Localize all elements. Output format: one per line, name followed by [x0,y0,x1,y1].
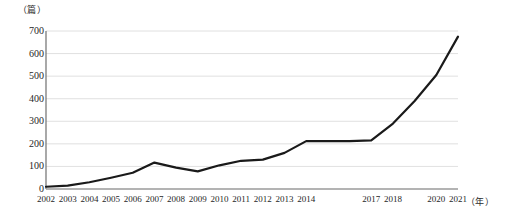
y-axis-tick-labels: 0100200300400500600700 [0,31,44,189]
gridlines [46,31,458,166]
x-axis-tick-label: 2021 [449,194,467,205]
y-axis-tick-label: 0 [0,184,44,194]
line-chart: （篇） 0100200300400500600700 2002200320042… [0,0,507,216]
y-axis-tick-label: 400 [0,94,44,104]
x-axis-tick-label: 2002 [37,194,55,205]
y-axis-tick-label: 300 [0,116,44,126]
x-axis-tick-label: 2008 [167,194,185,205]
x-axis-tick-label: 2012 [254,194,272,205]
y-axis-unit-label: （篇） [18,3,46,16]
plot-area [46,31,458,189]
x-axis-tick-label: 2014 [297,194,315,205]
data-series-line [46,37,458,187]
x-axis-tick-label: 2013 [276,194,294,205]
y-axis-tick-label: 700 [0,26,44,36]
plot-svg [46,31,458,189]
y-axis-tick-label: 600 [0,49,44,59]
x-axis-tick-label: 2017 [362,194,380,205]
x-axis-tick-label: 2007 [145,194,163,205]
x-axis-tick-label: 2018 [384,194,402,205]
y-axis-tick-label: 100 [0,161,44,171]
x-axis-tick-label: 2004 [80,194,98,205]
x-axis-tick-label: 2006 [124,194,142,205]
x-axis-tick-label: 2011 [232,194,250,205]
x-axis-tick-label: 2020 [427,194,445,205]
x-axis-tick-label: 2003 [59,194,77,205]
x-axis-tick-label: 2005 [102,194,120,205]
y-axis-tick-label: 200 [0,139,44,149]
y-axis-tick-label: 500 [0,71,44,81]
x-axis-tick-label: 2009 [189,194,207,205]
x-axis-unit-label: （年） [466,195,494,208]
x-axis-tick-label: 2010 [211,194,229,205]
x-axis-tick-labels: 2002200320042005200620072008200920102011… [46,194,458,208]
